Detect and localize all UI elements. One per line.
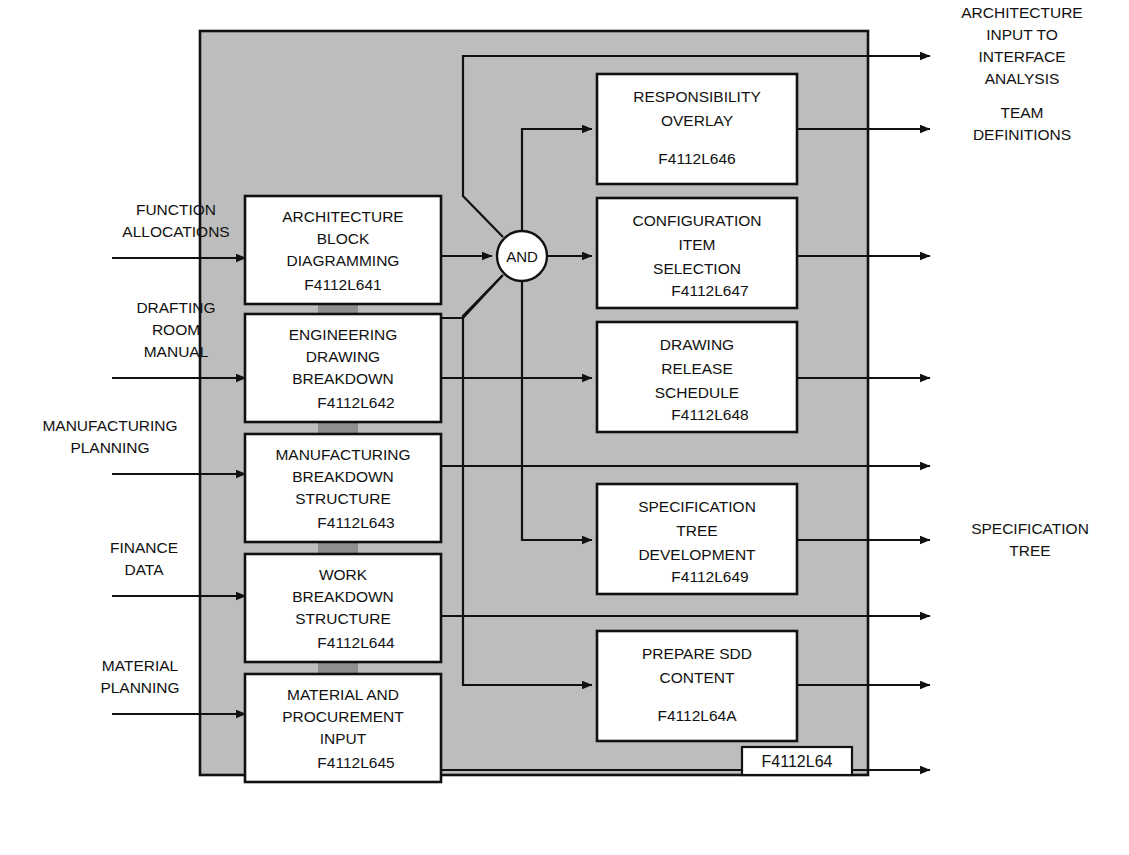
input-label-manufacturing-planning: MANUFACTURING PLANNING — [42, 417, 177, 456]
label-line: TEAM — [1000, 104, 1043, 121]
label-line: FINANCE — [110, 539, 178, 556]
label-line: DATA — [124, 561, 164, 578]
label-line: PLANNING — [70, 439, 149, 456]
box-code: F4112L647 — [671, 282, 748, 299]
box-code: F4112L641 — [304, 276, 381, 293]
left-box-L641[interactable]: ARCHITECTURE BLOCK DIAGRAMMING F4112L641 — [245, 196, 441, 304]
label-line: DRAFTING — [136, 299, 215, 316]
box-line: ARCHITECTURE — [282, 208, 403, 225]
output-label-team-definitions: TEAM DEFINITIONS — [973, 104, 1071, 143]
label-line: INPUT TO — [986, 26, 1058, 43]
box-line: BLOCK — [317, 230, 370, 247]
box-line: INPUT — [320, 730, 367, 747]
box-code: F4112L646 — [658, 150, 735, 167]
box-line: PREPARE SDD — [642, 645, 752, 662]
box-line: STRUCTURE — [295, 490, 391, 507]
and-gate: AND — [497, 231, 547, 281]
label-line: MANUAL — [144, 343, 209, 360]
input-label-material-planning: MATERIAL PLANNING — [100, 657, 179, 696]
activity-tag-label: F4112L64 — [762, 753, 833, 770]
left-box-L644[interactable]: WORK BREAKDOWN STRUCTURE F4112L644 — [245, 554, 441, 662]
label-line: ROOM — [152, 321, 200, 338]
label-line: MATERIAL — [102, 657, 179, 674]
output-label-specification-tree: SPECIFICATION TREE — [971, 520, 1089, 559]
box-line: TREE — [676, 522, 717, 539]
box-line: STRUCTURE — [295, 610, 391, 627]
box-line: DEVELOPMENT — [638, 546, 756, 563]
box-code: F4112L645 — [317, 754, 394, 771]
box-line: RELEASE — [661, 360, 733, 377]
right-box-L647[interactable]: CONFIGURATION ITEM SELECTION F4112L647 — [597, 198, 797, 308]
box-line: PROCUREMENT — [282, 708, 404, 725]
box-line: ENGINEERING — [289, 326, 398, 343]
box-line: MANUFACTURING — [275, 446, 410, 463]
box-line: MATERIAL AND — [287, 686, 399, 703]
right-box-L646[interactable]: RESPONSIBILITY OVERLAY F4112L646 — [597, 74, 797, 184]
box-line: DIAGRAMMING — [287, 252, 400, 269]
box-code: F4112L649 — [671, 568, 748, 585]
left-box-L642[interactable]: ENGINEERING DRAWING BREAKDOWN F4112L642 — [245, 314, 441, 422]
box-line: DRAWING — [306, 348, 380, 365]
box-code: F4112L64A — [658, 707, 738, 724]
box-line: SELECTION — [653, 260, 741, 277]
box-code: F4112L643 — [317, 514, 394, 531]
label-line: ANALYSIS — [985, 70, 1060, 87]
box-line: ITEM — [678, 236, 715, 253]
activity-tag: F4112L64 — [742, 747, 852, 775]
label-line: DEFINITIONS — [973, 126, 1071, 143]
idef0-diagram: AND AR — [0, 0, 1129, 855]
box-line: CONFIGURATION — [633, 212, 762, 229]
right-box-L648[interactable]: DRAWING RELEASE SCHEDULE F4112L648 — [597, 322, 797, 432]
right-box-L64A[interactable]: PREPARE SDD CONTENT F4112L64A — [597, 631, 797, 741]
label-line: TREE — [1009, 542, 1050, 559]
box-line: DRAWING — [660, 336, 734, 353]
box-line: WORK — [319, 566, 368, 583]
box-code: F4112L642 — [317, 394, 394, 411]
box-line: BREAKDOWN — [292, 370, 394, 387]
label-line: MANUFACTURING — [42, 417, 177, 434]
box-line: CONTENT — [660, 669, 735, 686]
label-line: ARCHITECTURE — [961, 4, 1082, 21]
box-line: OVERLAY — [661, 112, 733, 129]
box-line: SCHEDULE — [655, 384, 739, 401]
box-line: RESPONSIBILITY — [633, 88, 760, 105]
right-box-L649[interactable]: SPECIFICATION TREE DEVELOPMENT F4112L649 — [597, 484, 797, 594]
box-code: F4112L648 — [671, 406, 748, 423]
label-line: SPECIFICATION — [971, 520, 1089, 537]
and-gate-label: AND — [506, 248, 538, 265]
label-line: FUNCTION — [136, 201, 216, 218]
left-box-L645[interactable]: MATERIAL AND PROCUREMENT INPUT F4112L645 — [245, 674, 441, 782]
box-line: BREAKDOWN — [292, 468, 394, 485]
label-line: INTERFACE — [979, 48, 1066, 65]
box-code: F4112L644 — [317, 634, 395, 651]
label-line: PLANNING — [100, 679, 179, 696]
box-line: SPECIFICATION — [638, 498, 756, 515]
box-line: BREAKDOWN — [292, 588, 394, 605]
label-line: ALLOCATIONS — [122, 223, 229, 240]
output-label-architecture-input: ARCHITECTURE INPUT TO INTERFACE ANALYSIS — [961, 4, 1082, 87]
input-label-finance-data: FINANCE DATA — [110, 539, 178, 578]
left-box-L643[interactable]: MANUFACTURING BREAKDOWN STRUCTURE F4112L… — [245, 434, 441, 542]
diagram-canvas: AND AR — [0, 0, 1129, 855]
